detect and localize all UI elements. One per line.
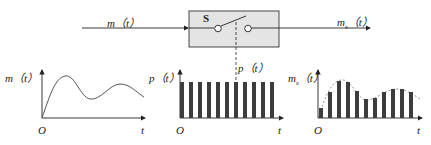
graph2-x-label: t	[278, 124, 281, 136]
graph1-origin-label: O	[38, 124, 46, 136]
graph-pulse-train	[180, 70, 283, 118]
switch-right-contact	[245, 25, 252, 32]
graph3-y-label: ms（t）	[288, 69, 324, 87]
continuous-curve	[42, 76, 144, 118]
input-signal-label: m（t）	[107, 14, 140, 30]
output-signal-label: ms（t）	[337, 13, 373, 31]
pulse-bars	[180, 82, 274, 118]
envelope-curve	[318, 80, 420, 118]
graph2-origin-label: O	[176, 124, 184, 136]
graph-continuous-signal	[42, 70, 145, 118]
graph2-y-label: p（t）	[149, 69, 180, 85]
pulse-signal-label: p（t）	[238, 59, 269, 75]
sampled-bars	[319, 81, 413, 118]
graph1-y-label: m（t）	[5, 69, 38, 85]
switch-left-contact	[215, 25, 222, 32]
graph3-origin-label: O	[314, 124, 322, 136]
switch-label: S	[203, 12, 209, 24]
graph-sampled-signal	[318, 70, 422, 118]
graph1-x-label: t	[141, 124, 144, 136]
graph3-x-label: t	[417, 124, 420, 136]
